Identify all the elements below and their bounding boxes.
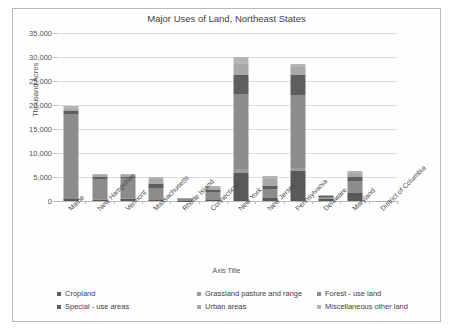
gridline	[57, 177, 397, 178]
x-axis-tick-mark	[397, 201, 398, 204]
x-axis-tick-mark	[227, 201, 228, 204]
chart-container: Major Uses of Land, Northeast States Tho…	[12, 8, 441, 322]
bar-segment	[290, 75, 305, 95]
x-axis-tick-mark	[284, 201, 285, 204]
legend-swatch	[197, 292, 201, 296]
bar-segment	[92, 179, 107, 200]
bar-segment	[64, 114, 79, 199]
legend-item[interactable]: Special - use areas	[57, 300, 197, 313]
gridline	[57, 57, 397, 58]
gridline	[57, 33, 397, 34]
gridline	[57, 105, 397, 106]
legend-swatch	[317, 305, 321, 309]
y-axis-tick-label: 0	[48, 197, 52, 206]
bar-segment	[234, 94, 249, 170]
gridline	[57, 153, 397, 154]
legend-item[interactable]: Forest - use land	[317, 287, 412, 300]
legend-item[interactable]: Urban areas	[197, 300, 317, 313]
bar-segment	[290, 95, 305, 168]
x-axis-tick-mark	[255, 201, 256, 204]
gridline	[57, 81, 397, 82]
y-axis-tick-mark	[54, 33, 57, 34]
bar-segment	[234, 57, 249, 65]
x-axis-tick-mark	[199, 201, 200, 204]
legend: CroplandGrassland pasture and rangeFores…	[57, 287, 412, 313]
y-axis-tick-label: 25,000	[29, 77, 52, 86]
x-axis-tick-mark	[312, 201, 313, 204]
y-axis-tick-label: 30,000	[29, 53, 52, 62]
plot-area: 05,00010,00015,00020,00025,00030,00035,0…	[57, 33, 397, 201]
x-axis-tick-mark	[170, 201, 171, 204]
y-axis-tick-label: 20,000	[29, 101, 52, 110]
y-axis-tick-mark	[54, 105, 57, 106]
x-axis-tick-mark	[114, 201, 115, 204]
legend-label: Miscellaneous other land	[325, 302, 408, 311]
y-axis-tick-mark	[54, 153, 57, 154]
y-axis-tick-mark	[54, 57, 57, 58]
x-axis-title: Axis Title	[13, 267, 440, 274]
y-axis-tick-label: 15,000	[29, 125, 52, 134]
x-axis-tick-mark	[142, 201, 143, 204]
legend-label: Grassland pasture and range	[205, 289, 302, 298]
bar-segment	[234, 64, 249, 75]
bar-segment	[347, 181, 362, 193]
legend-swatch	[57, 305, 61, 309]
legend-label: Cropland	[65, 289, 95, 298]
legend-item[interactable]: Cropland	[57, 287, 197, 300]
bar-segment	[234, 75, 249, 94]
y-axis-tick-mark	[54, 201, 57, 202]
y-axis-tick-mark	[54, 81, 57, 82]
chart-title: Major Uses of Land, Northeast States	[13, 13, 440, 24]
y-axis-tick-mark	[54, 177, 57, 178]
legend-item[interactable]: Miscellaneous other land	[317, 300, 412, 313]
x-axis-tick-mark	[369, 201, 370, 204]
y-axis-tick-label: 5,000	[33, 173, 52, 182]
legend-label: Urban areas	[205, 302, 246, 311]
bar-segment	[290, 67, 305, 75]
x-axis-tick-mark	[85, 201, 86, 204]
x-axis-tick-mark	[340, 201, 341, 204]
y-axis-tick-mark	[54, 129, 57, 130]
y-axis-tick-label: 10,000	[29, 149, 52, 158]
y-axis-tick-label: 35,000	[29, 29, 52, 38]
bar[interactable]	[64, 106, 79, 201]
legend-swatch	[317, 292, 321, 296]
legend-label: Special - use areas	[65, 302, 129, 311]
gridline	[57, 129, 397, 130]
legend-item[interactable]: Grassland pasture and range	[197, 287, 317, 300]
legend-swatch	[57, 292, 61, 296]
x-axis-label: District of Columbia	[379, 164, 427, 212]
legend-label: Forest - use land	[325, 289, 381, 298]
legend-swatch	[197, 305, 201, 309]
bar[interactable]	[234, 57, 249, 201]
